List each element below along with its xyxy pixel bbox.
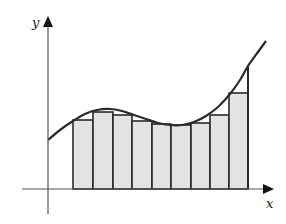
x-axis-label: x xyxy=(266,196,274,211)
riemann-rectangle-3 xyxy=(113,115,132,189)
diagram-canvas: x y xyxy=(0,0,286,224)
riemann-rectangle-7 xyxy=(191,123,210,189)
rectangles-group xyxy=(73,93,248,189)
riemann-rectangle-4 xyxy=(132,121,152,189)
x-axis-arrow-icon xyxy=(263,184,274,194)
riemann-rectangle-6 xyxy=(171,125,191,189)
riemann-rectangle-9 xyxy=(229,93,248,189)
riemann-rectangle-5 xyxy=(152,124,171,189)
y-axis-label: y xyxy=(31,15,40,30)
riemann-rectangle-1 xyxy=(73,120,93,189)
riemann-sum-diagram: x y xyxy=(0,0,286,224)
riemann-rectangle-2 xyxy=(93,112,113,189)
y-axis-arrow-icon xyxy=(43,16,53,27)
riemann-rectangle-8 xyxy=(210,115,229,189)
